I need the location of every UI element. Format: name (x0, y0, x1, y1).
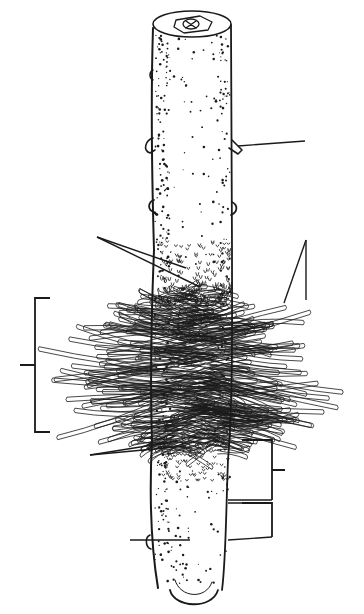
root-diagram (0, 0, 364, 614)
bracket-elongation-zone (242, 440, 285, 500)
lateral-bud-left-4 (146, 535, 151, 549)
leader-zone-boundary (228, 537, 272, 540)
lateral-bud-left-1 (146, 138, 155, 153)
root-cap (170, 590, 218, 604)
root-illustration (0, 0, 364, 614)
root-hairs (38, 241, 343, 482)
leader-young-root-hairs-b (97, 237, 200, 287)
leader-stem-lateral-bud (238, 141, 305, 146)
leader-young-root-hairs-a (97, 237, 186, 268)
bracket-root-hair-zone (20, 298, 50, 432)
bracket-meristem-zone (242, 503, 272, 537)
leader-root-hair-right-a (284, 240, 306, 303)
root-cap-inner (175, 580, 212, 595)
xylem-cross (186, 21, 196, 28)
